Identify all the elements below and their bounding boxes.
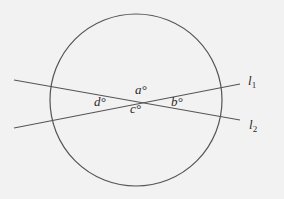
angle-d-label: d° bbox=[94, 94, 106, 109]
line-l1-label: l1 bbox=[248, 73, 256, 90]
circle bbox=[50, 14, 222, 186]
line-l1 bbox=[14, 84, 240, 128]
angle-b-label: b° bbox=[171, 94, 183, 109]
line-l2-label: l2 bbox=[249, 117, 257, 134]
angle-c-label: c° bbox=[130, 101, 141, 116]
angle-a-label: a° bbox=[135, 82, 147, 97]
line-l2 bbox=[14, 80, 240, 120]
diagram-canvas: a° b° c° d° l1 l2 bbox=[0, 0, 284, 199]
